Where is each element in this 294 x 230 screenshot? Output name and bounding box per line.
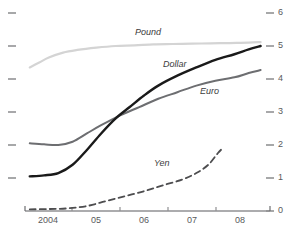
chart-container: 200405060708 6543210 PoundDollarEuroYen — [0, 0, 294, 230]
series-line-pound — [30, 42, 261, 67]
x-tick-label-06: 06 — [128, 216, 160, 225]
series-label-dollar: Dollar — [163, 60, 187, 69]
x-tick-label-07: 07 — [176, 216, 208, 225]
series-line-dollar — [30, 46, 261, 176]
right-axis-ticks — [266, 13, 274, 211]
series-line-euro — [30, 70, 261, 145]
x-tick-label-05: 05 — [80, 216, 112, 225]
y-tick-label-3: 3 — [278, 107, 283, 116]
y-tick-label-0: 0 — [278, 206, 283, 215]
y-tick-label-5: 5 — [278, 41, 283, 50]
left-axis-ticks — [8, 13, 16, 178]
y-tick-label-1: 1 — [278, 173, 283, 182]
data-series-group — [30, 42, 261, 209]
y-tick-label-6: 6 — [278, 8, 283, 17]
x-tick-label-2004: 2004 — [32, 216, 64, 225]
series-line-yen — [30, 148, 223, 209]
x-tick-label-08: 08 — [224, 216, 256, 225]
series-label-yen: Yen — [154, 159, 170, 168]
series-label-euro: Euro — [200, 87, 219, 96]
y-tick-label-2: 2 — [278, 140, 283, 149]
series-label-pound: Pound — [135, 28, 161, 37]
y-tick-label-4: 4 — [278, 74, 283, 83]
